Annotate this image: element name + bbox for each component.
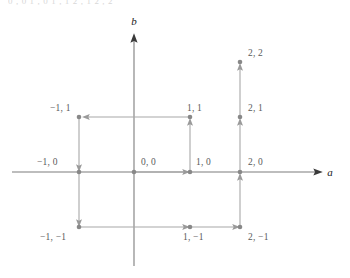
point-1-m1[interactable]	[188, 225, 193, 230]
axis-b-label: b	[131, 15, 137, 27]
point-1-1[interactable]	[188, 115, 193, 120]
coordinate-diagram: a b	[0, 0, 350, 278]
point-label-1-m1: 1, −1	[183, 232, 204, 242]
point-2-m1[interactable]	[238, 225, 243, 230]
point-label-2-2: 2, 2	[248, 48, 263, 58]
point-m1-m1[interactable]	[77, 225, 82, 230]
point-label-m1-m1: −1, −1	[40, 232, 66, 242]
point-label-2-0: 2, 0	[248, 157, 263, 167]
point-label-m1-0: −1, 0	[37, 157, 58, 167]
point-label-1-0: 1, 0	[196, 157, 211, 167]
axis-a-label: a	[327, 166, 333, 178]
diagram-canvas: 0 , 0 1 , 0 1 , 1 2 , 1 2 , 2 a b	[0, 0, 350, 278]
point-label-1-1: 1, 1	[187, 103, 202, 113]
point-label-2-m1: 2, −1	[248, 232, 269, 242]
point-m1-0[interactable]	[77, 170, 82, 175]
point-1-0[interactable]	[188, 170, 193, 175]
axes-group: a b	[12, 15, 333, 266]
point-2-2[interactable]	[238, 60, 243, 65]
point-label-0-0: 0, 0	[141, 157, 156, 167]
point-label-2-1: 2, 1	[248, 103, 263, 113]
transition-arrows-group	[79, 67, 240, 227]
point-2-0[interactable]	[238, 170, 243, 175]
point-0-0[interactable]	[132, 170, 137, 175]
point-m1-1[interactable]	[77, 115, 82, 120]
points-group: 2, 2 2, 1 2, 0 2, −1 1, 1 1, 0 1, −1 0, …	[37, 48, 269, 242]
point-2-1[interactable]	[238, 115, 243, 120]
point-label-m1-1: −1, 1	[50, 103, 71, 113]
